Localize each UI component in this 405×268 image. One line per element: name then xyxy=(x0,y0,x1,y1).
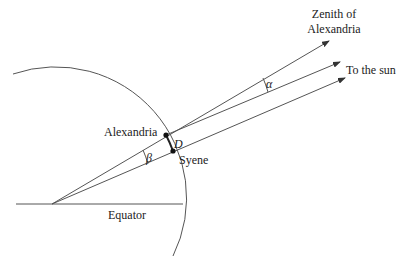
sun-label: To the sun xyxy=(346,63,396,77)
alpha-label: α xyxy=(266,77,273,91)
distance-label: D xyxy=(173,137,183,151)
beta-label: β xyxy=(145,151,152,165)
equator-label: Equator xyxy=(108,208,146,222)
alexandria-label: Alexandria xyxy=(104,125,158,139)
syene-label: Syene xyxy=(179,153,208,167)
sun-ray-alexandria-arrow xyxy=(166,62,340,135)
zenith-label-line2: Alexandria xyxy=(307,22,361,36)
earth-surface-arc xyxy=(13,67,187,256)
zenith-label-line1: Zenith of xyxy=(312,7,356,21)
zenith-arrow xyxy=(52,41,329,204)
alexandria-point xyxy=(163,132,168,137)
eratosthenes-diagram: Zenith of Alexandria To the sun Alexandr… xyxy=(0,0,405,268)
sun-ray-syene-arrow xyxy=(52,78,345,204)
